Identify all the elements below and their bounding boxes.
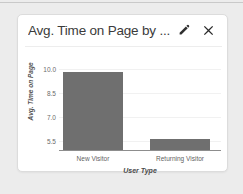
y-axis-tick: 8.5 bbox=[32, 90, 56, 97]
y-axis-tick: 5.5 bbox=[32, 138, 56, 145]
close-icon[interactable] bbox=[199, 21, 218, 40]
bar-returning-visitor[interactable] bbox=[150, 139, 210, 150]
x-axis-line bbox=[59, 150, 221, 151]
top-rule bbox=[0, 2, 243, 3]
bar-new-visitor[interactable] bbox=[63, 72, 123, 150]
gridline bbox=[59, 69, 221, 70]
page-title: Avg. Time on Page by ... bbox=[28, 23, 174, 38]
card-header: Avg. Time on Page by ... bbox=[18, 15, 227, 46]
x-axis-title: User Type bbox=[59, 167, 221, 174]
x-axis-tick: Returning Visitor bbox=[156, 155, 204, 162]
pencil-icon[interactable] bbox=[174, 21, 193, 40]
bar-chart: Avg. Time on Page 10.0 8.5 7.0 5.5 New V… bbox=[18, 47, 227, 172]
chart-card: Avg. Time on Page by ... Avg. Time on Pa… bbox=[17, 14, 228, 172]
x-axis-tick: New Visitor bbox=[77, 155, 110, 162]
y-axis-tick: 10.0 bbox=[32, 66, 56, 73]
y-axis-tick: 7.0 bbox=[32, 114, 56, 121]
